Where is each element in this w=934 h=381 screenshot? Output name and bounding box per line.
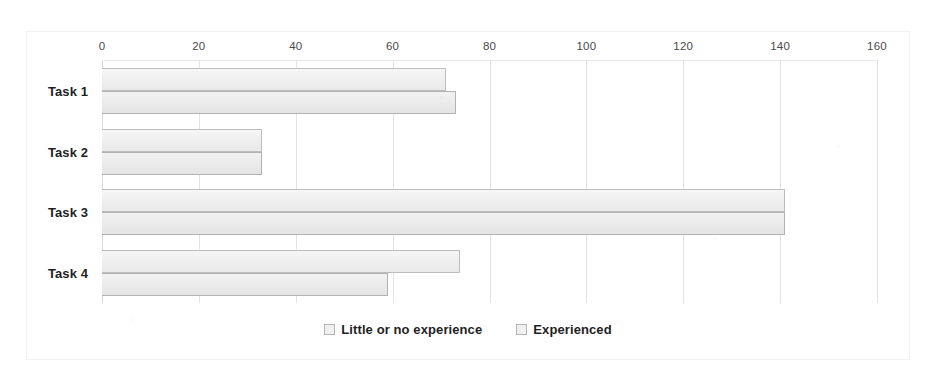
legend-swatch-icon: [324, 324, 335, 335]
category-row: Task 4: [102, 243, 877, 304]
legend-label: Little or no experience: [341, 322, 482, 337]
category-label: Task 1: [48, 84, 88, 99]
bar-task-4-series-0: [102, 250, 460, 273]
category-row: Task 2: [102, 122, 877, 183]
x-tick-label: 20: [192, 40, 205, 52]
bar-task-1-series-1: [102, 91, 456, 114]
legend-entry-1[interactable]: Experienced: [516, 322, 611, 337]
x-tick-label: 160: [867, 40, 887, 52]
plot-area: Task 1Task 2Task 3Task 4: [102, 61, 877, 303]
category-label: Task 4: [48, 265, 88, 280]
x-tick-label: 120: [673, 40, 693, 52]
bar-task-3-series-0: [102, 189, 785, 212]
x-tick-label: 80: [483, 40, 496, 52]
legend-label: Experienced: [533, 322, 611, 337]
legend-entry-0[interactable]: Little or no experience: [324, 322, 482, 337]
bar-task-2-series-0: [102, 129, 262, 152]
x-tick-label: 60: [386, 40, 399, 52]
x-tick-label: 40: [289, 40, 302, 52]
chart-legend: Little or no experienceExperienced: [27, 322, 909, 337]
x-axis-tick-labels: 020406080100120140160: [102, 40, 877, 60]
category-label: Task 3: [48, 205, 88, 220]
category-row: Task 1: [102, 61, 877, 122]
x-tick-label: 100: [576, 40, 596, 52]
gridline: [877, 61, 878, 303]
category-row: Task 3: [102, 182, 877, 243]
bar-task-3-series-1: [102, 212, 785, 235]
x-tick-label: 140: [770, 40, 790, 52]
category-label: Task 2: [48, 144, 88, 159]
bar-task-2-series-1: [102, 152, 262, 175]
chart-frame: 020406080100120140160 Task 1Task 2Task 3…: [26, 31, 910, 360]
x-tick-label: 0: [99, 40, 106, 52]
legend-swatch-icon: [516, 324, 527, 335]
bar-task-1-series-0: [102, 68, 446, 91]
bar-task-4-series-1: [102, 273, 388, 296]
